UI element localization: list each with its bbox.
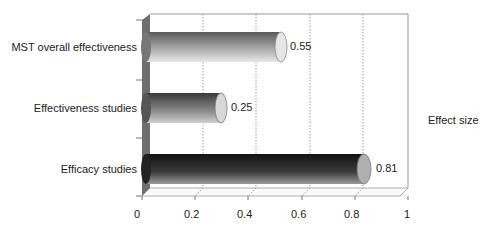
- x-tick-label: 1: [404, 208, 410, 220]
- x-tick-label: 0.2: [184, 208, 199, 220]
- bar-effectiveness-studies: [141, 93, 227, 123]
- axis-title: Effect size: [428, 114, 479, 126]
- x-tick-label: 0.4: [237, 208, 252, 220]
- category-label: Effectiveness studies: [34, 102, 137, 114]
- x-tick-label: 0.8: [344, 208, 359, 220]
- category-label: MST overall effectiveness: [11, 41, 137, 53]
- x-axis: [142, 196, 408, 200]
- value-label: 0.55: [290, 40, 311, 52]
- effect-size-chart: [0, 0, 494, 232]
- category-label: Efficacy studies: [61, 163, 137, 175]
- value-label: 0.25: [231, 101, 252, 113]
- value-label: 0.81: [376, 162, 397, 174]
- x-tick-label: 0: [134, 208, 140, 220]
- bar-mst-overall: [141, 32, 287, 62]
- bar-efficacy-studies: [141, 154, 371, 184]
- x-tick-label: 0.6: [291, 208, 306, 220]
